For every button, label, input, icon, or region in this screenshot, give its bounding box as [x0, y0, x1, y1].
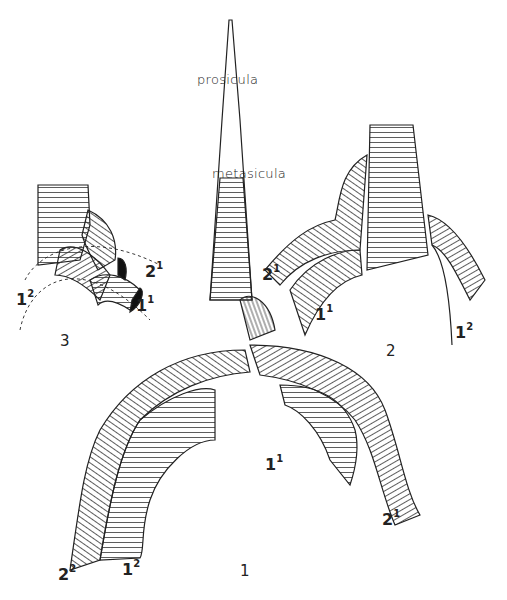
fig1-label-1-2: 12: [122, 560, 140, 579]
fig1-sicula: [210, 20, 252, 300]
fig2-label-1-1: 11: [315, 305, 333, 324]
fig1-branches: [70, 296, 420, 570]
graptolite-figure: prosicula metasicula 11 21 22 12 1 21 11…: [0, 0, 507, 600]
fig1-label-2-1: 21: [382, 510, 400, 529]
metasicula-label: metasicula: [212, 166, 286, 181]
fig3-label-1-1: 11: [136, 296, 154, 315]
fig2-label-1-2: 12: [455, 323, 473, 342]
illustration: [0, 0, 507, 600]
fig3-label-2-1: 21: [145, 262, 163, 281]
fig3-label-1-2: 12: [16, 290, 34, 309]
prosicula-label: prosicula: [197, 72, 258, 87]
figure-number-3: 3: [60, 332, 70, 350]
fig1-label-1-1: 11: [265, 455, 283, 474]
figure-number-2: 2: [386, 342, 396, 360]
figure-number-1: 1: [240, 562, 250, 580]
fig2-drawing: [265, 125, 485, 345]
fig2-label-2-1: 21: [262, 265, 280, 284]
fig1-label-2-2: 22: [58, 565, 76, 584]
